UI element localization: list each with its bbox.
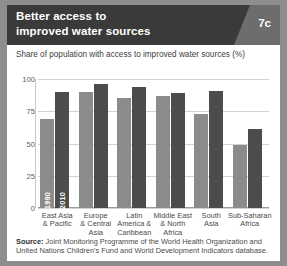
bar-group: Sub-SaharanAfrica bbox=[231, 79, 270, 208]
chart-plot-area: 0255075100 19902010East Asia& PacificEur… bbox=[7, 64, 280, 224]
bar-group: 19902010East Asia& Pacific bbox=[38, 79, 77, 208]
bar-group: Europe& CentralAsia bbox=[77, 79, 116, 208]
bar-group: Middle East& NorthAfrica bbox=[154, 79, 193, 208]
bar-1990: 1990 bbox=[40, 119, 54, 208]
chart-header: Better access to improved water sources … bbox=[7, 5, 280, 45]
y-axis-tick-label: 100 bbox=[11, 75, 35, 84]
x-axis-category-line: Africa bbox=[223, 220, 277, 228]
bar-group: LatinAmerica &Caribbean bbox=[115, 79, 154, 208]
title-line-1: Better access to bbox=[16, 9, 151, 24]
y-axis-tick-label: 75 bbox=[11, 107, 35, 116]
bar-1990 bbox=[79, 92, 93, 208]
source-text: Joint Monitoring Programme of the World … bbox=[16, 237, 268, 255]
y-axis-tick-label: 25 bbox=[11, 172, 35, 181]
bar-year-label: 1990 bbox=[43, 192, 52, 209]
bar-1990 bbox=[117, 98, 131, 208]
figure-number-badge: 7c bbox=[258, 17, 271, 29]
bar-2010 bbox=[94, 84, 108, 208]
page-title: Better access to improved water sources bbox=[16, 9, 151, 39]
bar-2010 bbox=[209, 91, 223, 208]
bar-2010 bbox=[171, 93, 185, 208]
x-axis-category-line: Africa bbox=[146, 229, 200, 237]
bar-year-label: 2010 bbox=[58, 192, 67, 209]
plot-canvas: 0255075100 19902010East Asia& PacificEur… bbox=[38, 79, 269, 208]
bar-1990 bbox=[194, 114, 208, 208]
y-axis-line bbox=[35, 79, 36, 208]
gridline-0 bbox=[38, 208, 269, 209]
source-label: Source: bbox=[16, 237, 44, 246]
bar-group: SouthAsia bbox=[192, 79, 231, 208]
title-line-2: improved water sources bbox=[16, 24, 151, 39]
chart-subtitle: Share of population with access to impro… bbox=[7, 45, 280, 64]
y-axis-tick-label: 50 bbox=[11, 140, 35, 149]
bar-2010: 2010 bbox=[55, 92, 69, 208]
bar-2010 bbox=[132, 87, 146, 208]
header-wedge-shape bbox=[234, 5, 280, 45]
x-axis-category-label: Sub-SaharanAfrica bbox=[223, 212, 277, 229]
bar-1990 bbox=[156, 96, 170, 208]
source-note: Source: Joint Monitoring Programme of th… bbox=[7, 237, 280, 255]
figure-card: Better access to improved water sources … bbox=[7, 5, 280, 261]
bar-1990 bbox=[233, 145, 247, 208]
bar-2010 bbox=[248, 129, 262, 208]
